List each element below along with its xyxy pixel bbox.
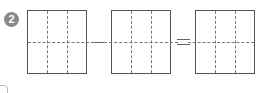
grid-line (28, 42, 94, 43)
grid-line (104, 42, 178, 43)
answer-frame-corner (0, 85, 8, 93)
answer-box-2[interactable] (111, 10, 171, 74)
grid-line (188, 42, 254, 43)
answer-box-1[interactable] (27, 10, 87, 74)
problem-number-badge: 2 (4, 12, 19, 27)
equals-sign-top (177, 39, 190, 40)
equals-sign-bottom (177, 44, 190, 45)
answer-box-3[interactable] (195, 10, 255, 74)
